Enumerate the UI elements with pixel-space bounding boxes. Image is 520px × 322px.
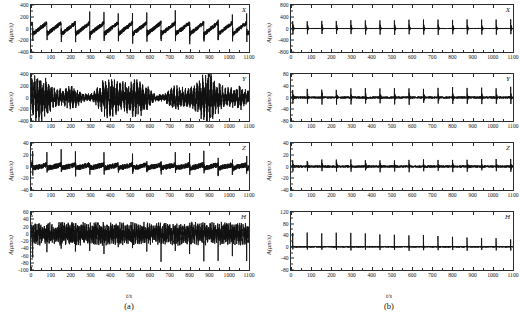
y-tick-mark	[291, 223, 294, 224]
x-tick-mark	[229, 267, 230, 270]
x-tick-mark-minor	[120, 268, 121, 270]
y-tick-label: 400	[280, 14, 291, 20]
x-tick-label: 0	[30, 52, 33, 60]
x-tick-mark-top	[392, 212, 393, 215]
x-tick-label: 1100	[508, 190, 519, 198]
x-tick-mark-minor	[442, 188, 443, 190]
x-tick-mark-top	[71, 143, 72, 146]
x-tick-mark	[130, 118, 131, 121]
y-tick-mark	[31, 85, 34, 86]
y-tick-mark	[291, 40, 294, 41]
x-tick-mark-minor	[61, 188, 62, 190]
x-tick-mark-top	[311, 143, 312, 146]
x-tick-mark	[249, 49, 250, 52]
x-tick-label: 500	[126, 121, 134, 129]
x-tick-label: 700	[428, 121, 436, 129]
x-tick-label: 0	[30, 121, 33, 129]
y-tick-label: -20	[21, 238, 31, 244]
y-tick-mark-minor	[31, 103, 33, 104]
x-tick-label: 100	[307, 190, 315, 198]
x-tick-mark	[150, 49, 151, 52]
y-tick-mark	[31, 166, 34, 167]
y-tick-mark-minor	[291, 34, 293, 35]
x-tick-mark	[311, 118, 312, 121]
x-tick-mark	[51, 187, 52, 190]
y-tick-mark-minor	[291, 264, 293, 265]
x-tick-mark-minor	[120, 50, 121, 52]
x-tick-label: 800	[185, 52, 193, 60]
x-tick-mark	[170, 49, 171, 52]
x-tick-mark-top	[71, 5, 72, 8]
x-tick-mark-top	[412, 74, 413, 77]
x-tick-label: 400	[106, 190, 114, 198]
y-tick-label: 200	[20, 14, 31, 20]
y-axis-title: A(μm/s)	[265, 235, 272, 255]
panel-label-b-Z: Z	[506, 144, 510, 152]
x-tick-mark-minor	[81, 188, 82, 190]
x-tick-label: 1100	[244, 270, 255, 278]
series-trace	[31, 212, 249, 270]
x-tick-mark	[170, 267, 171, 270]
x-tick-mark-minor	[402, 268, 403, 270]
y-tick-label: 20	[283, 152, 291, 158]
y-tick-mark-minor	[291, 22, 293, 23]
y-tick-mark	[31, 109, 34, 110]
y-tick-mark-minor	[31, 259, 33, 260]
x-tick-mark-top	[31, 143, 32, 146]
x-tick-mark-minor	[41, 119, 42, 121]
x-tick-mark-minor	[160, 268, 161, 270]
x-tick-label: 1100	[508, 52, 519, 60]
plot-area-b-X: X 8004000-400-80001002003004005006007008…	[290, 4, 514, 53]
y-tick-mark	[291, 178, 294, 179]
x-tick-mark-top	[110, 212, 111, 215]
y-tick-mark-minor	[31, 230, 33, 231]
x-tick-mark-top	[90, 212, 91, 215]
panel-a-X: A(μm/s) X 4002000-200-400010020030040050…	[0, 0, 258, 65]
y-tick-mark-minor	[291, 184, 293, 185]
x-tick-mark-minor	[239, 119, 240, 121]
x-tick-mark-top	[473, 5, 474, 8]
x-tick-mark	[473, 118, 474, 121]
panel-label-b-X: X	[506, 6, 510, 14]
panel-label-a-X: X	[242, 6, 246, 14]
x-tick-label: 1000	[487, 190, 498, 198]
x-tick-mark-top	[432, 5, 433, 8]
y-axis-title: A(μm/s)	[7, 235, 14, 255]
x-tick-mark-top	[90, 5, 91, 8]
x-tick-label: 600	[146, 121, 154, 129]
y-tick-label: -40	[281, 106, 291, 112]
x-tick-label: 400	[368, 270, 376, 278]
y-tick-mark	[291, 246, 294, 247]
y-tick-mark-minor	[291, 46, 293, 47]
x-tick-mark-top	[291, 74, 292, 77]
panel-label-a-Y: Y	[242, 75, 246, 83]
figure-column-b: A(μm/s) X 8004000-400-800010020030040050…	[258, 0, 520, 322]
x-tick-label: 700	[428, 190, 436, 198]
x-tick-mark-minor	[199, 188, 200, 190]
x-tick-mark-top	[229, 143, 230, 146]
x-tick-mark-minor	[341, 119, 342, 121]
x-tick-mark-top	[51, 212, 52, 215]
y-axis-title: A(μm/s)	[265, 161, 272, 181]
x-tick-mark-top	[150, 5, 151, 8]
x-tick-mark-minor	[81, 268, 82, 270]
x-tick-mark	[372, 187, 373, 190]
x-tick-mark-top	[31, 5, 32, 8]
x-tick-mark-top	[352, 5, 353, 8]
x-tick-label: 100	[47, 52, 55, 60]
x-tick-label: 100	[307, 270, 315, 278]
x-tick-mark-top	[170, 74, 171, 77]
x-tick-mark-top	[291, 212, 292, 215]
x-tick-label: 400	[368, 190, 376, 198]
x-tick-mark-top	[51, 5, 52, 8]
x-tick-mark-minor	[362, 188, 363, 190]
y-tick-mark-minor	[31, 184, 33, 185]
x-tick-mark-top	[291, 143, 292, 146]
x-tick-label: 800	[448, 52, 456, 60]
x-tick-label: 100	[47, 121, 55, 129]
y-tick-mark-minor	[31, 22, 33, 23]
x-tick-mark-minor	[61, 50, 62, 52]
x-tick-mark	[190, 267, 191, 270]
y-tick-mark	[31, 262, 34, 263]
y-tick-mark	[31, 178, 34, 179]
